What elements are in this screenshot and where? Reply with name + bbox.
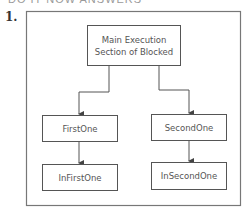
second-node-label: SecondOne: [152, 115, 226, 140]
edge-main-to-first: [79, 66, 109, 115]
edge-main-to-second: [159, 66, 189, 114]
main-node-label: Main Execution Section of Blocked: [88, 26, 180, 65]
first-node-label: FirstOne: [43, 116, 117, 141]
main-node-line1: Main Execution: [102, 34, 167, 46]
insecond-node-label: InSecondOne: [152, 163, 226, 189]
infirst-node-label: InFirstOne: [43, 165, 117, 190]
main-node-line2: Section of Blocked: [95, 46, 174, 58]
